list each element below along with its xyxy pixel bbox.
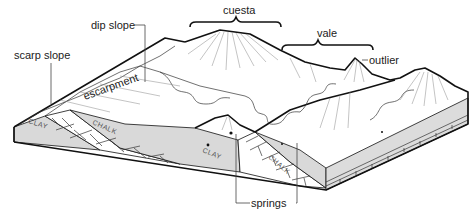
label-scarp-slope: scarp slope <box>14 49 70 61</box>
label-springs: springs <box>251 197 287 209</box>
front-right-face <box>326 98 468 190</box>
label-vale: vale <box>317 27 337 39</box>
spring-marker <box>207 144 210 147</box>
label-dip-slope: dip slope <box>91 19 135 31</box>
spring-marker <box>281 143 283 145</box>
vale-brace <box>282 40 373 50</box>
label-escarpment: escarpment <box>82 71 140 102</box>
label-cuesta: cuesta <box>223 4 256 16</box>
spring-marker <box>229 131 232 134</box>
spring-marker <box>381 131 383 133</box>
cuesta-brace <box>190 17 281 27</box>
label-outlier: outlier <box>369 54 399 66</box>
cuesta-block-diagram: CLAY CHALK CLAY CHALK escarpment cuesta … <box>0 0 473 223</box>
